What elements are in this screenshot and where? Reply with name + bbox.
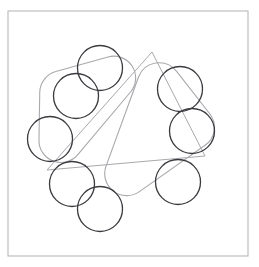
geometric-figure-svg <box>0 0 259 267</box>
figure-canvas <box>0 0 259 267</box>
